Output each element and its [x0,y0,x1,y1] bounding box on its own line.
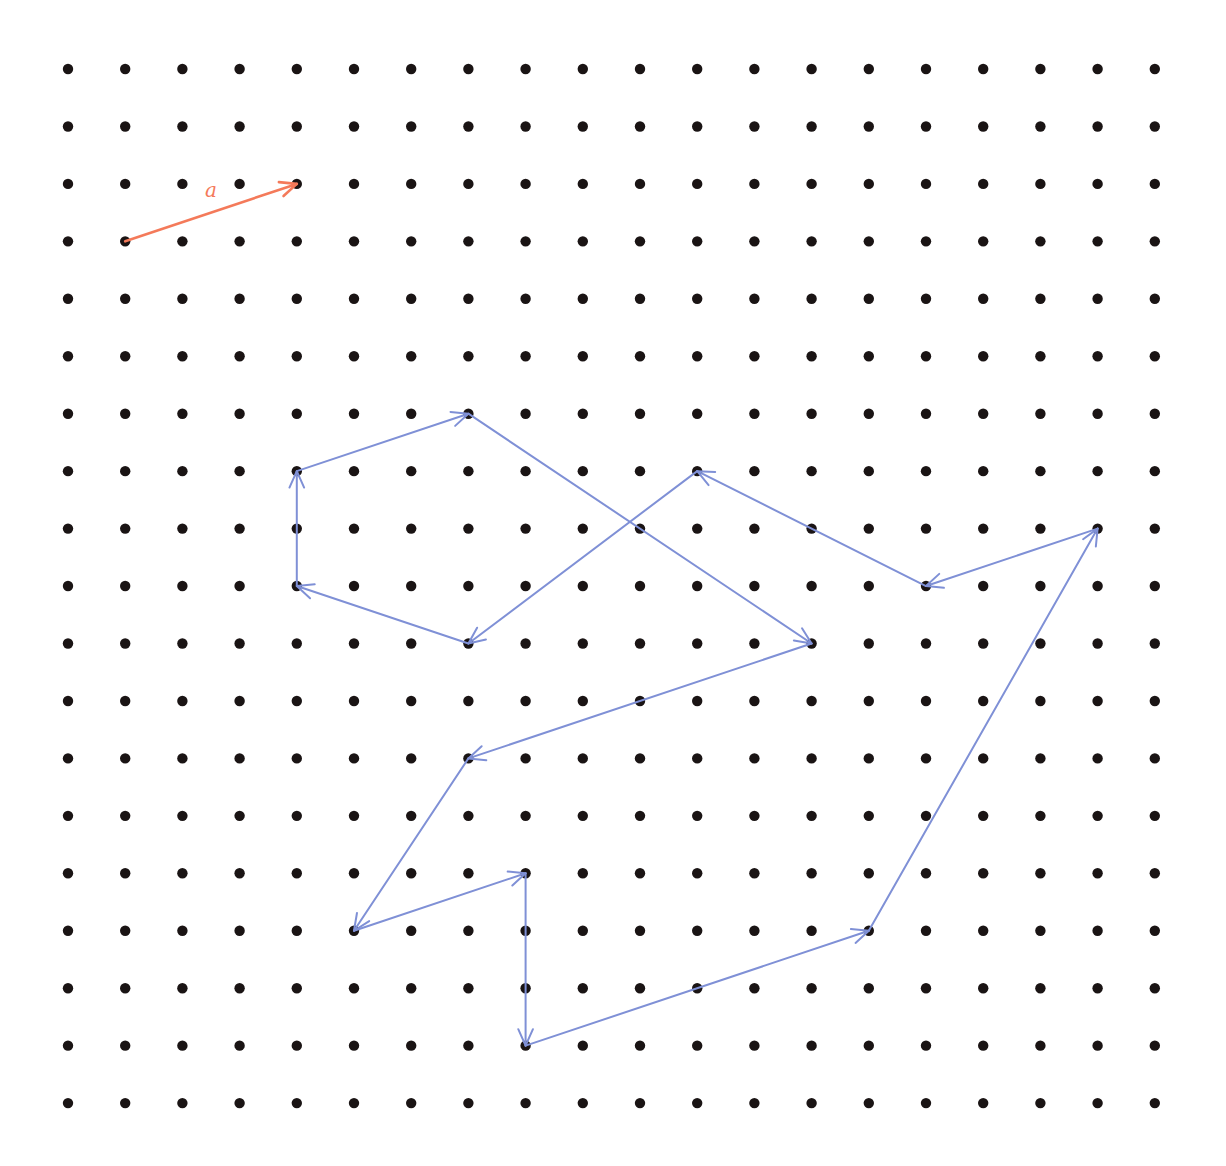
lattice-dot [1035,409,1045,419]
lattice-dot [806,236,816,246]
lattice-dot [978,121,988,131]
lattice-dot [864,811,874,821]
lattice-dot [1150,1098,1160,1108]
lattice-dot [692,351,702,361]
lattice-dot [463,1040,473,1050]
lattice-dot [864,1040,874,1050]
lattice-dot [349,983,359,993]
lattice-dot [1092,236,1102,246]
lattice-dot [1035,179,1045,189]
lattice-dot [1150,926,1160,936]
lattice-dot [806,753,816,763]
lattice-dot [978,523,988,533]
lattice-dot [177,179,187,189]
lattice-dot [635,753,645,763]
lattice-dot [978,811,988,821]
lattice-dot [692,179,702,189]
lattice-dot [120,466,130,476]
lattice-dot [63,121,73,131]
lattice-dot [635,811,645,821]
lattice-dot [749,811,759,821]
lattice-dot [177,351,187,361]
lattice-dot [234,409,244,419]
lattice-dot [1092,409,1102,419]
lattice-dot [234,466,244,476]
lattice-dot [578,179,588,189]
lattice-dot [349,696,359,706]
lattice-dot [978,983,988,993]
lattice-dot [635,64,645,74]
lattice-dot [120,523,130,533]
lattice-dot [1150,1040,1160,1050]
lattice-dot [692,1040,702,1050]
lattice-dot [63,1098,73,1108]
lattice-dot [234,1098,244,1108]
lattice-dot [806,1098,816,1108]
lattice-dot [1092,1098,1102,1108]
lattice-dot [1150,638,1160,648]
lattice-dot [1035,983,1045,993]
lattice-dot [978,179,988,189]
lattice-dot [578,753,588,763]
lattice-dot [349,523,359,533]
lattice-dot [1150,983,1160,993]
lattice-dot [578,638,588,648]
lattice-dot [292,121,302,131]
path-vector-13-shaft [297,414,469,471]
lattice-dot [864,1098,874,1108]
lattice-dot [177,466,187,476]
lattice-dot [63,926,73,936]
lattice-dot [635,1098,645,1108]
lattice-dot [749,236,759,246]
lattice-dot [63,696,73,706]
lattice-dot [578,236,588,246]
lattice-dot [234,696,244,706]
path-vector-9-shaft [697,471,926,586]
path-vector-11-shaft [297,586,469,643]
lattice-dot [234,351,244,361]
lattice-dot [749,638,759,648]
lattice-dot [749,179,759,189]
lattice-dot [806,1040,816,1050]
lattice-dot [635,351,645,361]
lattice-dot [1150,753,1160,763]
lattice-dot [406,1098,416,1108]
lattice-dot [520,351,530,361]
lattice-dot [921,236,931,246]
lattice-dot [177,926,187,936]
lattice-dot [921,638,931,648]
lattice-dot [463,351,473,361]
lattice-dot [177,1098,187,1108]
lattice-dot [1092,868,1102,878]
lattice-dot [978,696,988,706]
lattice-dot [749,351,759,361]
lattice-dot [406,236,416,246]
lattice-dot [1035,64,1045,74]
lattice-dot [921,523,931,533]
lattice-dot [406,294,416,304]
lattice-dot [864,523,874,533]
lattice-dot [463,696,473,706]
lattice-dot [177,983,187,993]
lattice-dot [234,868,244,878]
lattice-dot [978,466,988,476]
lattice-dot [921,868,931,878]
lattice-dot [749,1040,759,1050]
lattice-dot [749,581,759,591]
lattice-dot [63,523,73,533]
lattice-dot [520,409,530,419]
lattice-dot [406,466,416,476]
lattice-dot [578,64,588,74]
lattice-dot [292,811,302,821]
lattice-dot [692,1098,702,1108]
lattice-dot [921,351,931,361]
lattice-dot [1092,581,1102,591]
lattice-dot [63,868,73,878]
lattice-dot [463,121,473,131]
lattice-dot [1035,868,1045,878]
lattice-dot [1092,638,1102,648]
lattice-dot [292,868,302,878]
lattice-dot [63,638,73,648]
lattice-dot [578,351,588,361]
lattice-dot [406,926,416,936]
